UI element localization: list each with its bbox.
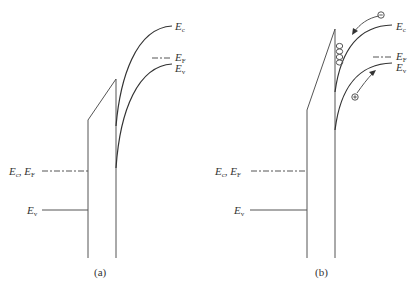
arrowhead-icon [352,28,358,35]
electron-icon [336,49,342,54]
arrowhead-icon [369,70,376,76]
label-ec-right: Ec [395,20,406,34]
label-ec-right: Ec [174,20,185,34]
panel-b [250,12,393,258]
label-ecef-left: Ec, EF [8,165,35,179]
panel-b-labels: Ec EF Ev Ec, EF Ev (b) [214,20,407,279]
hole-arrow [357,73,373,93]
label-ev-left: Ev [26,204,38,218]
conduction-band-curve [116,26,172,126]
label-ecef-left: Ec, EF [214,165,241,179]
conduction-band-curve [335,25,392,92]
panel-a [42,26,172,258]
left-wall [88,79,116,258]
left-wall [307,29,335,258]
trapped-electrons [336,43,342,65]
label-ev-left: Ev [233,204,245,218]
caption-a: (a) [94,266,107,279]
electron-icon [336,43,342,48]
electron-arrow [354,16,379,32]
electron-icon [336,54,342,59]
panel-a-labels: Ec EF Ev Ec, EF Ev (a) [8,20,186,279]
valence-band-curve [335,63,392,130]
band-diagram: Ec EF Ev Ec, EF Ev (a) Ec [0,0,415,285]
caption-b: (b) [315,266,328,279]
